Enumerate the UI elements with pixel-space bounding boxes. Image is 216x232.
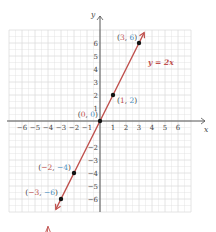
small-arrow-mark-icon [45,226,50,232]
data-point [98,119,102,123]
x-tick-label: −2 [69,124,79,132]
y-tick-label: 4 [94,66,99,74]
point-label: (3, 6) [117,33,137,42]
x-tick-label: 1 [111,124,115,132]
data-point [111,93,115,97]
x-tick-label: −4 [43,124,54,132]
x-tick-label: 5 [163,124,167,132]
y-tick-label: 3 [94,79,98,87]
y-tick-label: −6 [88,196,99,204]
data-point [137,41,141,45]
x-tick-label: 4 [150,124,155,132]
line-chart: xy−6−5−4−3−2−1123456−6−5−4−3−2123456y = … [0,0,216,232]
y-tick-label: −2 [88,144,98,152]
y-tick-label: 6 [94,40,99,48]
y-tick-label: 2 [94,92,98,100]
x-tick-label: 6 [176,124,181,132]
equation-label: y = 2x [147,58,174,67]
x-axis-label: x [204,125,209,134]
x-tick-label: −3 [56,124,66,132]
point-label: (−2, −4) [38,163,71,172]
y-tick-label: 5 [94,53,98,61]
x-tick-label: −1 [82,124,92,132]
x-tick-label: −6 [17,124,28,132]
point-label: (−3, −6) [25,188,58,197]
x-tick-label: 3 [137,124,141,132]
y-axis-label: y [90,10,96,19]
point-label: (0, 0) [78,110,98,119]
x-tick-label: −5 [30,124,40,132]
y-tick-label: −4 [88,170,99,178]
data-point [59,197,63,201]
point-label: (1, 2) [117,96,137,105]
data-point [72,171,76,175]
x-tick-label: 2 [124,124,128,132]
y-tick-label: −5 [88,183,98,191]
y-tick-label: −3 [88,157,98,165]
